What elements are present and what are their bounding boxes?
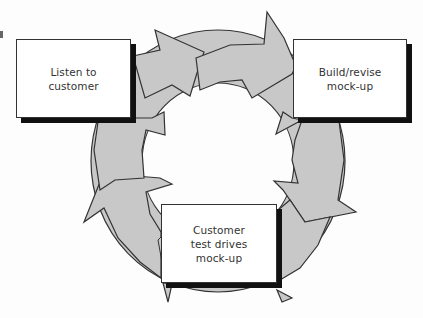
step-label: Customer test drives mock-up: [191, 223, 248, 265]
step-label: Listen to customer: [48, 65, 98, 93]
step-box-listen: Listen to customer: [16, 39, 131, 118]
step-label: Build/revise mock-up: [319, 65, 382, 93]
step-box-build: Build/revise mock-up: [293, 39, 407, 118]
cycle-diagram: Listen to customer Build/revise mock-up …: [0, 0, 423, 318]
step-box-test: Customer test drives mock-up: [161, 204, 277, 283]
